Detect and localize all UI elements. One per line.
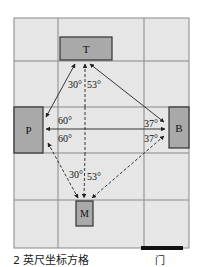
box-T-label: T <box>83 43 90 55</box>
box-B-label: B <box>175 122 182 134</box>
angle-B-top: 37° <box>144 118 158 129</box>
door-label: 门 <box>155 252 165 267</box>
angle-T-left: 30° <box>68 79 82 90</box>
box-P: P <box>14 107 43 153</box>
box-T: T <box>60 37 112 60</box>
angle-P-bottom: 60° <box>58 133 72 144</box>
box-M: M <box>76 201 93 226</box>
angle-B-bottom: 37° <box>144 133 158 144</box>
angle-P-top: 60° <box>58 115 72 126</box>
box-B: B <box>169 107 189 148</box>
door-bar <box>141 246 183 250</box>
box-P-label: P <box>25 124 31 136</box>
angle-M-right: 53° <box>87 171 101 182</box>
angle-T-right: 53° <box>87 79 101 90</box>
floor-plan-diagram: T P B M 30° 53° <box>0 0 198 267</box>
angle-M-left: 30° <box>69 169 83 180</box>
grid-caption: 2 英尺坐标方格 <box>13 251 90 267</box>
box-M-label: M <box>80 208 89 219</box>
